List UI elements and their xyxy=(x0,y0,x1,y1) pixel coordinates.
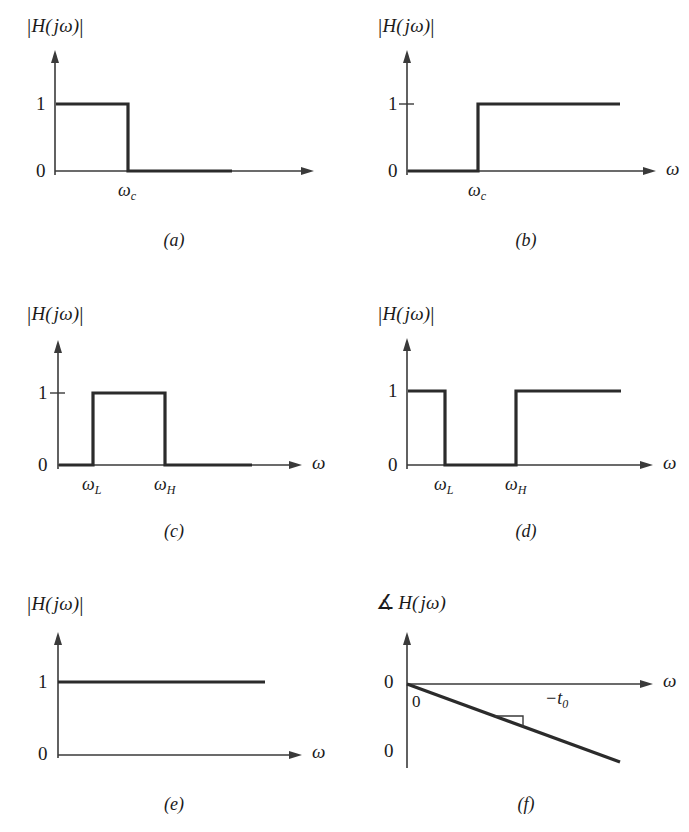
panel-d-plot xyxy=(0,288,689,566)
panel-f-plot xyxy=(0,578,689,832)
panel-d-bandstop: |H( jω)| 1 0 ωL ωH ω (d) xyxy=(0,288,689,566)
panel-b-highpass: |H( jω)| 1 0 ωc ω (b) xyxy=(0,0,689,275)
panel-b-caption: (b) xyxy=(476,230,576,251)
panel-f-linear-phase: ∡H( jω) 0 0 0 −t0 ω (f) xyxy=(0,578,689,832)
panel-f-caption: (f) xyxy=(476,794,576,815)
panel-b-plot xyxy=(0,0,689,275)
panel-d-caption: (d) xyxy=(476,521,576,542)
